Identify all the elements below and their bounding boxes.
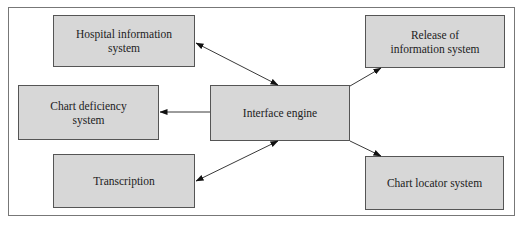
edge-hospital-interface — [196, 43, 278, 85]
edges-layer — [0, 0, 521, 225]
edge-transcription-interface — [196, 141, 278, 181]
edge-interface-chart-locator — [350, 141, 381, 156]
edge-interface-release — [350, 68, 381, 86]
